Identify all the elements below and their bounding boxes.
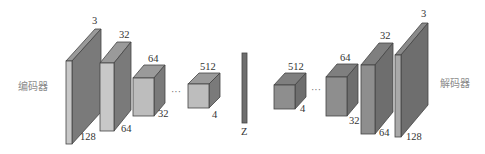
encoder-block-4-depth: 512 xyxy=(200,61,216,72)
decoder-block-1: 512 4 xyxy=(274,61,306,114)
encoder-block-1-depth: 3 xyxy=(92,15,97,26)
decoder-block-3-height: 64 xyxy=(379,127,390,138)
encoder-block-2-height: 64 xyxy=(121,123,132,134)
decoder-block-2-depth: 64 xyxy=(340,52,351,63)
latent-vector: Z xyxy=(241,53,247,137)
encoder-ellipsis: ··· xyxy=(171,86,181,97)
decoder-block-1-height: 4 xyxy=(300,103,306,114)
decoder-label: 解码器 xyxy=(440,77,470,89)
decoder-block-4-height: 128 xyxy=(406,131,422,142)
decoder-block-1-depth: 512 xyxy=(288,61,304,72)
encoder-block-3-height: 32 xyxy=(158,108,169,119)
encoder-block-4: 512 4 xyxy=(188,61,220,120)
decoder-block-3-depth: 32 xyxy=(380,30,391,41)
decoder-block-4: 3 128 xyxy=(395,8,428,142)
encoder-block-1: 3 128 xyxy=(66,15,101,144)
decoder-ellipsis: ··· xyxy=(311,84,321,95)
autoencoder-diagram: 编码器 3 128 32 64 64 32 ··· 512 4 Z xyxy=(0,0,485,154)
latent-label: Z xyxy=(241,126,247,137)
encoder-label: 编码器 xyxy=(18,80,48,92)
encoder-block-4-height: 4 xyxy=(212,109,218,120)
decoder-block-4-depth: 3 xyxy=(421,8,426,19)
encoder-block-3: 64 32 xyxy=(133,53,169,119)
encoder-block-3-depth: 64 xyxy=(148,53,159,64)
decoder-block-3: 32 64 xyxy=(361,30,393,138)
encoder-block-2-depth: 32 xyxy=(119,29,130,40)
encoder-block-1-height: 128 xyxy=(80,131,96,142)
decoder-block-2: 64 32 xyxy=(326,52,360,126)
encoder-block-2: 32 64 xyxy=(100,29,132,134)
decoder-block-2-height: 32 xyxy=(349,115,360,126)
